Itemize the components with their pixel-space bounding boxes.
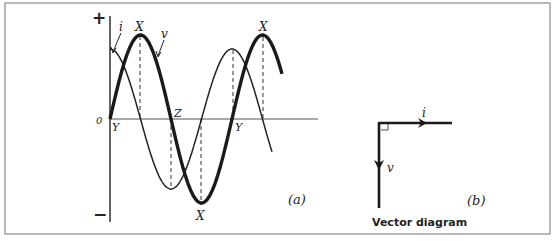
y-label-second: Y <box>235 121 244 134</box>
right-angle-marker <box>381 124 388 130</box>
waveform-panel: + − 0 i v X X X Y Y Z (a) <box>92 8 318 224</box>
panel-b-caption: (b) <box>467 193 485 208</box>
i-vector-label: i <box>422 106 426 120</box>
x-label-trough: X <box>195 209 205 223</box>
phase-diagram-figure: + − 0 i v X X X Y Y Z (a) i v (b) Vector… <box>0 0 555 241</box>
plus-label: + <box>92 8 106 28</box>
v-pointer-arrow <box>158 40 164 56</box>
x-label-peak-1: X <box>134 20 144 34</box>
i-pointer-arrow <box>113 33 121 52</box>
i-curve-label: i <box>119 20 123 34</box>
vector-diagram-panel: i v (b) Vector diagram <box>372 106 485 229</box>
z-label: Z <box>173 107 182 120</box>
x-label-peak-2: X <box>258 20 268 34</box>
v-vector-label: v <box>387 161 394 175</box>
minus-label: − <box>93 204 107 224</box>
origin-label: 0 <box>96 115 103 126</box>
panel-a-caption: (a) <box>288 192 306 207</box>
v-curve-label: v <box>161 27 168 41</box>
y-label-origin: Y <box>112 121 121 134</box>
vector-diagram-title: Vector diagram <box>372 216 467 229</box>
